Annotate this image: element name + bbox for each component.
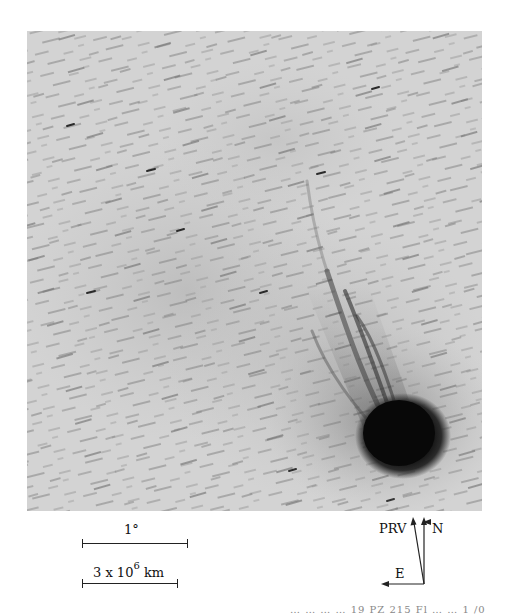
scale-label-km: 3 x 106 km	[93, 563, 164, 580]
scale-tick-right	[187, 539, 188, 548]
scale-tick-left	[82, 539, 83, 548]
east-arrow-icon	[381, 581, 389, 587]
scale-bar-km	[82, 583, 178, 584]
comet-image-svg	[27, 31, 482, 511]
prv-arrow-icon	[411, 517, 417, 526]
comet-photograph	[27, 31, 482, 511]
scale-label-km-unit: km	[144, 565, 164, 580]
scale-label-km-exponent: 6	[133, 560, 139, 571]
scale-label-degree: 1°	[124, 522, 139, 537]
scale-bar-degree	[82, 543, 188, 544]
scale-label-km-base: 3 x 10	[93, 565, 133, 580]
scale-tick-left	[82, 579, 83, 588]
compass-arrows-icon	[380, 515, 440, 590]
caption-fragment: … … … … 19 PZ 215 Fl … … 1 /0	[290, 604, 486, 615]
scale-tick-right	[177, 579, 178, 588]
